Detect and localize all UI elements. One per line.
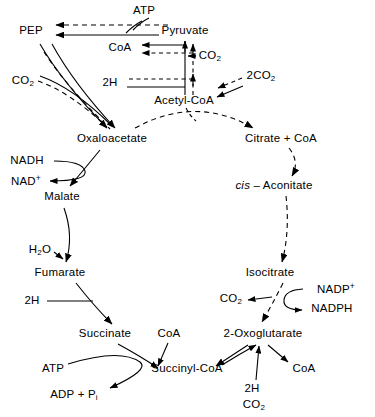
edge-2h-co2-from-oxoglutarate xyxy=(256,346,259,380)
node-co2-pyruvate: CO2 xyxy=(199,50,221,63)
edge-atp-to-adp xyxy=(68,355,142,388)
node-isocitrate: Isocitrate xyxy=(246,267,295,279)
edge-co2-feed-dashed xyxy=(38,81,107,127)
node-succinate: Succinate xyxy=(79,328,131,340)
node-2h-fumarate: 2H xyxy=(24,295,39,307)
atp-tick-1 xyxy=(133,18,149,30)
edge-fumarate-to-succinate xyxy=(76,283,112,324)
edge-isocitrate-to-co2 xyxy=(248,297,272,300)
node-nad-plus: NAD+ xyxy=(11,174,41,188)
node-atp-succinate: ATP xyxy=(42,363,64,375)
node-citrate-coa: Citrate + CoA xyxy=(245,133,317,145)
edge-2co2-to-acetylcoa-solid xyxy=(217,86,243,97)
edge-nadh-to-nadplus xyxy=(50,161,85,181)
edge-co2-to-oxaloacetate-dashed xyxy=(44,52,110,129)
edge-co2-feed-solid xyxy=(40,76,112,126)
pathway-arrow-layer xyxy=(0,0,375,417)
edge-cisaconitate-to-isocitrate xyxy=(282,196,287,262)
node-h2o: H2O xyxy=(29,244,51,257)
node-nadp-plus: NADP+ xyxy=(317,282,355,296)
node-fumarate: Fumarate xyxy=(35,267,86,279)
edge-nadp-to-nadph xyxy=(284,289,303,310)
node-co2-isocitrate: CO2 xyxy=(220,293,242,306)
pathway-diagram: ATP PEP Pyruvate CoA CO2 CO2 2H 2CO2 Ace… xyxy=(0,0,375,417)
node-nadph: NADPH xyxy=(311,303,352,315)
node-coa-pyruvate: CoA xyxy=(109,42,132,54)
edge-coa-into-oxoglutarate xyxy=(222,345,256,365)
node-nadh: NADH xyxy=(10,155,43,167)
edge-citrate-to-cisaconitate xyxy=(289,148,295,176)
node-pep: PEP xyxy=(19,25,43,37)
edge-h2o-to-fumarate xyxy=(54,252,63,259)
node-coa-oxoglutarate: CoA xyxy=(293,363,316,375)
edge-2co2-to-acetylcoa-dashed xyxy=(218,78,242,88)
node-coa-succinate: CoA xyxy=(158,328,181,340)
node-co2-pep: CO2 xyxy=(12,75,34,88)
node-succinyl-coa: Succinyl-CoA xyxy=(151,363,222,375)
node-malate: Malate xyxy=(44,191,80,203)
node-co2-oxoglutarate: CO2 xyxy=(243,399,265,412)
atp-tick-2 xyxy=(126,21,142,33)
node-acetyl-coa: Acetyl-CoA xyxy=(154,95,214,107)
edge-isocitrate-to-oxoglutarate xyxy=(262,283,283,322)
edge-acetylcoa-into-arc xyxy=(186,108,196,121)
node-oxaloacetate: Oxaloacetate xyxy=(77,133,147,145)
edge-oxaloacetate-to-malate xyxy=(70,150,100,186)
edge-malate-to-fumarate xyxy=(64,208,70,262)
node-2h-oxoglutarate: 2H xyxy=(244,383,259,395)
node-atp-top: ATP xyxy=(133,5,155,17)
node-2co2: 2CO2 xyxy=(247,70,276,83)
node-2h-acetylcoa: 2H xyxy=(102,77,117,89)
edge-oxoglutarate-to-coa xyxy=(268,345,288,362)
node-pyruvate: Pyruvate xyxy=(162,25,209,37)
node-2-oxoglutarate: 2-Oxoglutarate xyxy=(224,328,303,340)
node-adp-pi: ADP + Pi xyxy=(50,389,98,402)
node-cis-aconitate: cis – Aconitate xyxy=(235,180,312,192)
